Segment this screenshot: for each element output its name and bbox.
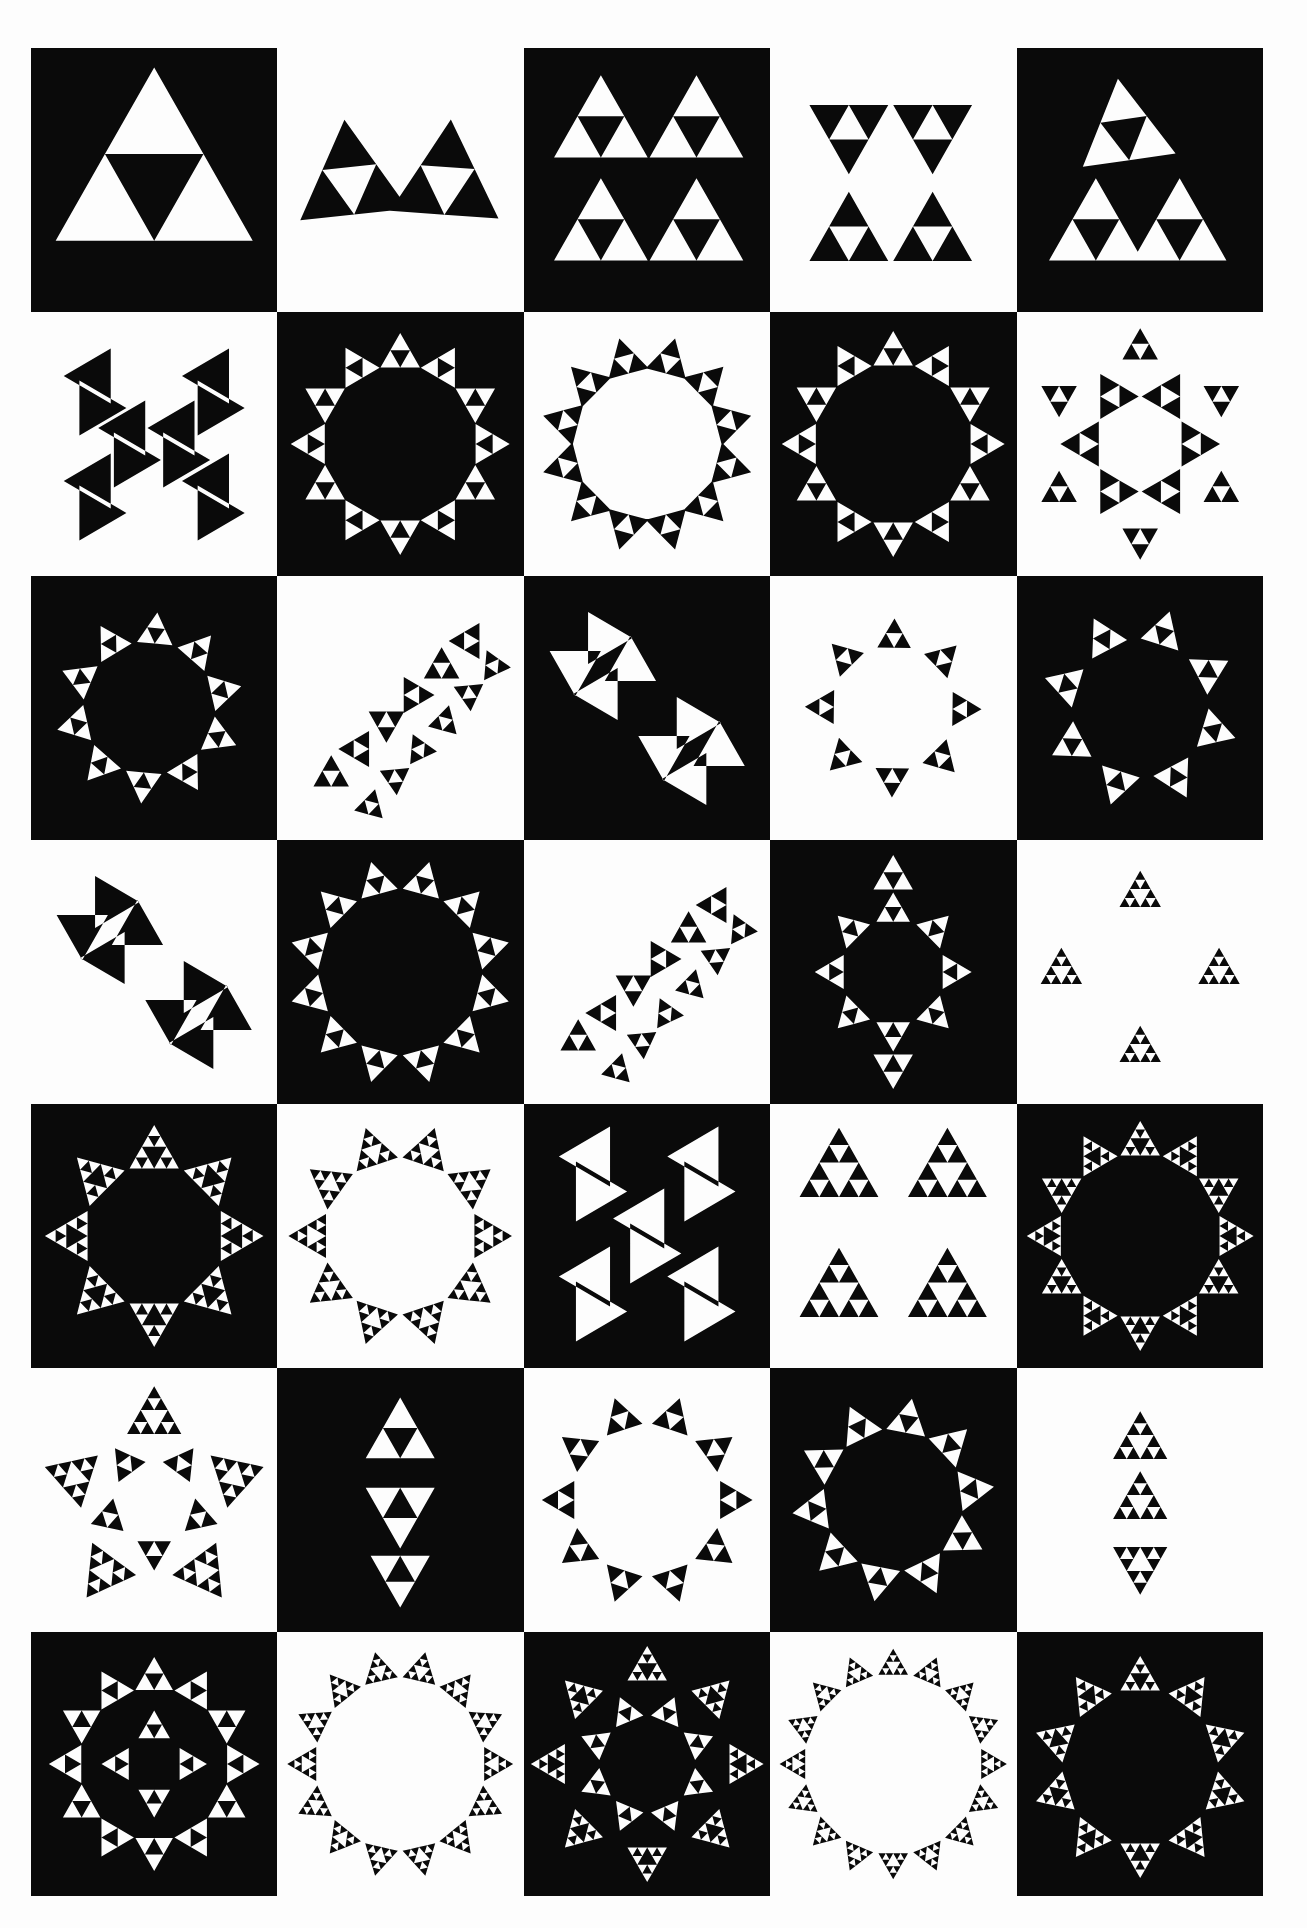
artwork-tile-ring-square — [770, 312, 1016, 576]
triangle-fractal-icon — [31, 1368, 277, 1632]
triangle-fractal-icon — [1017, 840, 1263, 1104]
triangle-fractal-icon — [770, 576, 1016, 840]
triangle-fractal-icon — [770, 1104, 1016, 1368]
artwork-tile-ring-diamond — [524, 312, 770, 576]
artwork-tile-pinwheel-pair — [31, 840, 277, 1104]
artwork-tile-diagonal-ring — [31, 576, 277, 840]
artwork-tile-lattice-block — [770, 1104, 1016, 1368]
triangle-fractal-icon — [770, 840, 1016, 1104]
artwork-tile-diagonal-blocks — [1017, 576, 1263, 840]
triangle-fractal-icon — [31, 840, 277, 1104]
artwork-tile-dotted-wreath — [277, 1104, 523, 1368]
artwork-tile-skewed-ring — [770, 1368, 1016, 1632]
triangle-fractal-icon — [524, 840, 770, 1104]
artwork-tile-ring-octagon — [277, 312, 523, 576]
triangle-fractal-icon — [277, 840, 523, 1104]
artwork-tile-five-point-star — [31, 1368, 277, 1632]
triangle-fractal-icon — [277, 576, 523, 840]
triangle-fractal-icon — [770, 48, 1016, 312]
artwork-tile-sierpinski-large-triangle — [31, 48, 277, 312]
triangle-fractal-icon — [770, 312, 1016, 576]
artwork-tile-pinwheel-pair — [524, 576, 770, 840]
artwork-tile-stacked-tall-triangle — [1017, 48, 1263, 312]
triangle-fractal-icon — [524, 1368, 770, 1632]
triangle-fractal-icon — [770, 1632, 1016, 1896]
artwork-tile-bowtie-columns — [524, 1104, 770, 1368]
triangle-fractal-icon — [524, 1104, 770, 1368]
artwork-tile-star-burst — [524, 1632, 770, 1896]
triangle-fractal-icon — [1017, 48, 1263, 312]
triangle-fractal-icon — [31, 312, 277, 576]
triangle-fractal-icon — [277, 1104, 523, 1368]
triangle-fractal-icon — [1017, 312, 1263, 576]
artwork-tile-spindle — [277, 1368, 523, 1632]
artwork-tile-leaf-cross — [770, 840, 1016, 1104]
artwork-tile-spiked-ring — [277, 1632, 523, 1896]
triangle-fractal-icon — [770, 1368, 1016, 1632]
artwork-tile-spiked-rectangle — [770, 1632, 1016, 1896]
artwork-tile-diagonal-chain — [277, 576, 523, 840]
artwork-tile-fine-cross — [1017, 840, 1263, 1104]
artwork-tile-hourglass-pair — [770, 48, 1016, 312]
artwork-tile-four-triangle-cluster — [524, 48, 770, 312]
triangle-fractal-icon — [524, 1632, 770, 1896]
artwork-tile-diagonal-frame — [770, 576, 1016, 840]
triangle-fractal-icon — [31, 1104, 277, 1368]
artwork-tile-dense-ring — [1017, 1104, 1263, 1368]
triangle-fractal-icon — [31, 48, 277, 312]
triangle-fractal-icon — [1017, 1632, 1263, 1896]
artwork-tile-oval-rosette — [31, 1632, 277, 1896]
triangle-fractal-icon — [1017, 1104, 1263, 1368]
artwork-tile-diagonal-chain — [524, 840, 770, 1104]
artwork-tile-snowflake-cluster — [1017, 312, 1263, 576]
artwork-tile-twin-triangle-pair — [277, 48, 523, 312]
artwork-tile-spindle-small — [1017, 1368, 1263, 1632]
artwork-tile-pentagon-frame — [1017, 1632, 1263, 1896]
triangle-fractal-icon — [524, 576, 770, 840]
triangle-fractal-icon — [277, 1632, 523, 1896]
artwork-tile-bowtie-mirror — [31, 312, 277, 576]
triangle-fractal-icon — [31, 576, 277, 840]
triangle-fractal-icon — [1017, 1368, 1263, 1632]
artwork-tile-vase-outline — [524, 1368, 770, 1632]
artwork-tile-square-frame — [277, 840, 523, 1104]
triangle-fractal-icon — [277, 312, 523, 576]
triangle-fractal-icon — [1017, 576, 1263, 840]
artwork-tile-rosette-ring — [31, 1104, 277, 1368]
triangle-fractal-icon — [31, 1632, 277, 1896]
triangle-fractal-icon — [277, 1368, 523, 1632]
triangle-fractal-icon — [277, 48, 523, 312]
triangle-fractal-icon — [524, 48, 770, 312]
fractal-artwork-grid — [31, 48, 1263, 1896]
triangle-fractal-icon — [524, 312, 770, 576]
